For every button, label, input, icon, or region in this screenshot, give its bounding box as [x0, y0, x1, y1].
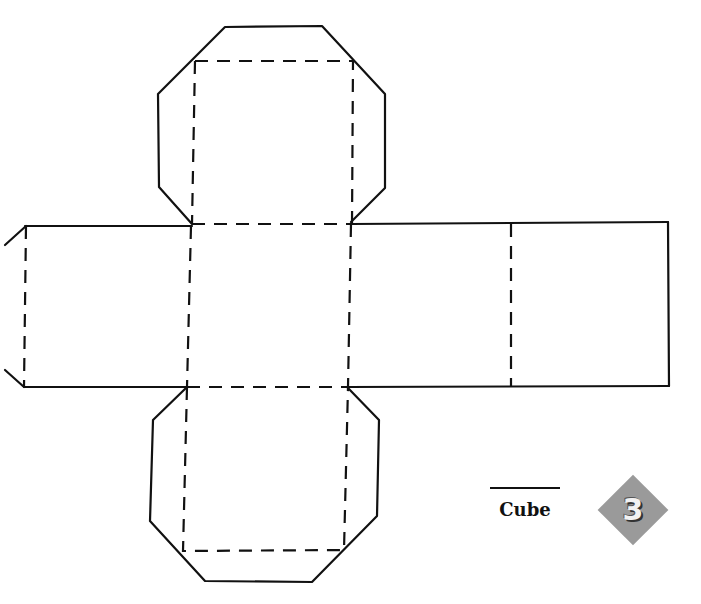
strip-bottom-edge-right	[348, 386, 669, 387]
number-badge: 3	[598, 475, 668, 545]
cube-net-diagram	[0, 0, 701, 604]
left-tab-bottom	[5, 370, 24, 387]
badge-number: 3	[598, 475, 668, 545]
fold-face2-face3	[348, 224, 351, 387]
strip-top-edge-right	[351, 222, 668, 224]
diagram-title: Cube	[490, 499, 560, 520]
title-block: Cube	[490, 487, 560, 520]
strip-right-edge	[668, 222, 669, 386]
top-face-fold	[195, 61, 353, 224]
left-tab-top	[5, 226, 26, 245]
top-face-fold-left	[192, 61, 195, 224]
fold-left-edge	[24, 226, 26, 387]
fold-face1-face2	[187, 226, 191, 387]
bottom-face-fold	[183, 387, 348, 551]
title-rule	[490, 487, 560, 489]
